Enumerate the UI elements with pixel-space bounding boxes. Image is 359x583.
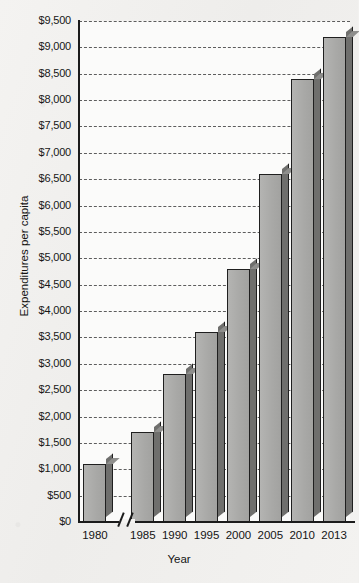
bar-face — [323, 37, 346, 522]
x-axis-title: Year — [0, 553, 358, 565]
y-axis-tick-label: $2,000 — [8, 410, 71, 422]
y-axis-tick-label: $2,500 — [8, 383, 71, 395]
bar-face — [259, 174, 282, 522]
bar-face — [291, 79, 314, 522]
bar-face — [227, 269, 250, 522]
y-axis-tick-label: $9,500 — [8, 14, 71, 26]
bar — [259, 174, 282, 522]
bar-side-shading — [346, 26, 353, 517]
bar — [83, 464, 106, 522]
y-axis-tick-label: $7,500 — [8, 119, 71, 131]
y-axis-tick-label: $8,000 — [8, 93, 71, 105]
bar-face — [163, 374, 186, 522]
bar — [291, 79, 314, 522]
bar-face — [195, 332, 218, 522]
y-axis-line — [78, 20, 80, 523]
bar-face — [83, 464, 106, 522]
y-axis-tick-label: $500 — [8, 489, 71, 501]
y-axis-tick-label: $1,500 — [8, 436, 71, 448]
y-axis-tick-label: $0 — [8, 515, 71, 527]
bar-face — [131, 432, 154, 522]
bar — [227, 269, 250, 522]
x-axis-break-symbol — [117, 512, 139, 530]
x-axis-tick-label: 2013 — [312, 529, 356, 541]
bar-side-shading — [282, 163, 289, 517]
x-axis-tick-label: 1980 — [73, 529, 117, 541]
y-axis-tick-label: $1,000 — [8, 462, 71, 474]
bar-side-shading — [154, 422, 161, 517]
bar-side-shading — [250, 258, 257, 517]
bar-side-shading — [314, 69, 321, 517]
bar-side-shading — [186, 364, 193, 517]
bar — [195, 332, 218, 522]
bar — [323, 37, 346, 522]
bar-side-shading — [218, 322, 225, 517]
y-axis-tick-label: $8,500 — [8, 67, 71, 79]
bar — [163, 374, 186, 522]
y-axis-title: Expenditures per capita — [18, 146, 30, 366]
y-axis-tick-label: $9,000 — [8, 40, 71, 52]
bar — [131, 432, 154, 522]
